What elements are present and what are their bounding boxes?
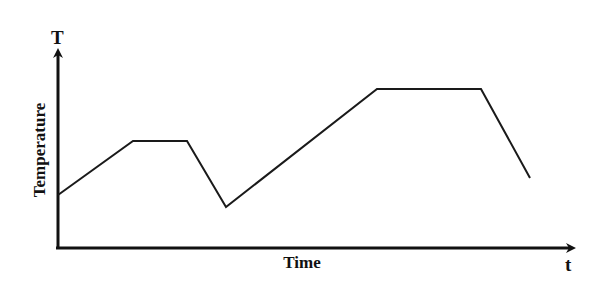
x-axis-label: Time (283, 253, 320, 273)
y-axis-symbol: T (51, 27, 64, 49)
y-axis-label: Temperature (30, 103, 50, 197)
temperature-line (58, 89, 530, 207)
x-axis-symbol: t (565, 254, 571, 276)
chart-canvas (0, 0, 603, 286)
